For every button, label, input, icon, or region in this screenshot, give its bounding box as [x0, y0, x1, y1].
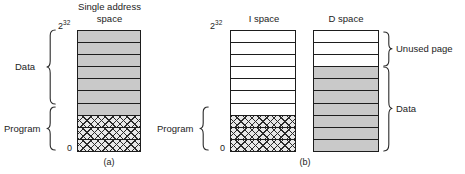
d-space-cell-9-gray: [314, 128, 378, 140]
panel-a-top-address: 232: [58, 21, 70, 31]
i-space-cell-2-white: [231, 43, 295, 55]
panel-b-data-brace: [383, 66, 393, 152]
panel-a-bottom-address: 0: [67, 143, 72, 153]
i-space-cell-10-hatch: [231, 140, 295, 151]
panel-b-bottom-address: 0: [220, 143, 225, 153]
panel-b-caption: (b): [275, 157, 335, 167]
i-space-cell-3-white: [231, 55, 295, 67]
single-address-space-cell-1-gray: [78, 31, 140, 43]
panel-b-top-address: 232: [210, 21, 222, 31]
d-space-cell-1-white: [314, 31, 378, 43]
panel-a-program-label: Program: [4, 123, 40, 134]
i-space-cell-6-white: [231, 91, 295, 103]
panel-a-program-brace: [46, 106, 56, 151]
single-address-space-cell-6-gray: [78, 91, 140, 103]
panel-a-caption: (a): [79, 157, 139, 167]
i-space-cell-4-white: [231, 67, 295, 79]
d-space-cell-5-gray: [314, 79, 378, 91]
single-address-space-cell-8-hatch: [78, 116, 140, 128]
panel-b-program-brace: [199, 106, 209, 151]
single-address-space-bar: [77, 30, 141, 152]
single-address-space-cell-9-hatch: [78, 128, 140, 140]
d-space-cell-8-gray: [314, 116, 378, 128]
d-space-cell-6-gray: [314, 91, 378, 103]
panel-a-title: Single address space: [57, 1, 162, 24]
figure-root: Single address space 232 0 Data Program …: [0, 0, 465, 174]
panel-a-data-label: Data: [15, 61, 35, 72]
panel-a-title-line2: space: [57, 13, 162, 25]
i-space-cell-8-hatch: [231, 116, 295, 128]
i-space-cell-5-white: [231, 79, 295, 91]
single-address-space-cell-2-gray: [78, 43, 140, 55]
panel-b-program-label: Program: [157, 123, 193, 134]
panel-a-data-brace: [46, 29, 56, 105]
i-space-cell-9-hatch: [231, 128, 295, 140]
i-space-cell-7-white: [231, 104, 295, 116]
d-space-bar: [313, 30, 379, 152]
i-space-cell-1-white: [231, 31, 295, 43]
panel-b-d-space-title: D space: [313, 13, 379, 25]
single-address-space-cell-7-gray: [78, 104, 140, 116]
d-space-cell-4-gray: [314, 67, 378, 79]
d-space-cell-2-white: [314, 43, 378, 55]
single-address-space-cell-4-gray: [78, 67, 140, 79]
panel-b-data-label: Data: [396, 103, 416, 114]
single-address-space-cell-10-hatch: [78, 140, 140, 151]
single-address-space-cell-5-gray: [78, 79, 140, 91]
panel-a-title-line1: Single address: [57, 1, 162, 13]
d-space-cell-7-gray: [314, 104, 378, 116]
d-space-cell-3-white: [314, 55, 378, 67]
panel-b-i-space-title: I space: [231, 13, 297, 25]
unused-page-label: Unused page: [396, 43, 453, 54]
i-space-bar: [230, 30, 296, 152]
single-address-space-cell-3-gray: [78, 55, 140, 67]
d-space-cell-10-gray: [314, 140, 378, 151]
unused-page-brace: [383, 31, 393, 67]
